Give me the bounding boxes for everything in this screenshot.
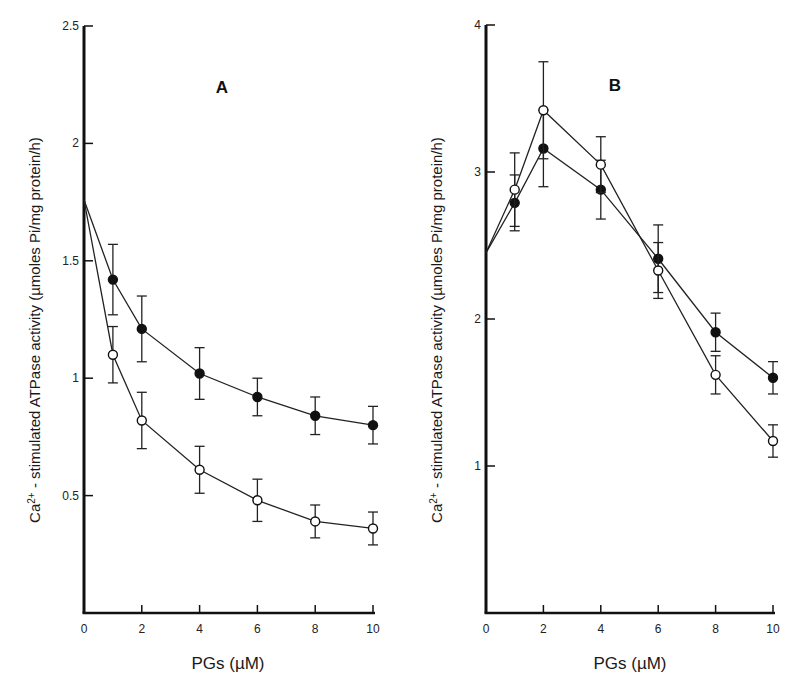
filled-circle-marker [711, 328, 720, 337]
filled-circle-marker [137, 324, 146, 333]
open-circle-marker [711, 370, 720, 379]
filled-circle-marker [769, 373, 778, 382]
x-tick-label: 8 [712, 622, 719, 636]
y-tick-label: 2 [72, 136, 79, 150]
panel-a-x-axis-title: PGs (µM) [191, 654, 264, 673]
x-tick-label: 4 [597, 622, 604, 636]
open-circle-marker [539, 106, 548, 115]
y-tick-label: 0.5 [62, 489, 79, 503]
open-circle-marker [769, 437, 778, 446]
y-tick-label: 3 [474, 165, 481, 179]
filled-circle-marker [311, 411, 320, 420]
open-circle-marker [654, 266, 663, 275]
panel-b-label: B [609, 76, 621, 95]
y-tick-label: 4 [474, 18, 481, 32]
filled-circle-marker [253, 392, 262, 401]
panel-b-x-axis-title: PGs (µM) [593, 654, 666, 673]
y-tick-label: 1 [474, 459, 481, 473]
panel-a-label: A [216, 78, 228, 97]
x-tick-label: 0 [483, 622, 490, 636]
open-circle-marker [253, 496, 262, 505]
open-circle-marker [596, 160, 605, 169]
y-tick-label: 2.5 [62, 19, 79, 33]
figure: 0.511.522.50246810Ca2+ - stimulated ATPa… [0, 0, 797, 695]
x-tick-label: 10 [766, 622, 780, 636]
series-open [84, 200, 378, 545]
x-tick-label: 4 [196, 622, 203, 636]
x-tick-label: 6 [254, 622, 261, 636]
open-circle-marker [369, 524, 378, 533]
panel-b-chart: 12340246810Ca2+ - stimulated ATPase acti… [428, 18, 780, 636]
open-circle-marker [311, 517, 320, 526]
y-axis-title: Ca2+ - stimulated ATPase activity (µmole… [428, 137, 446, 523]
x-tick-label: 2 [138, 622, 145, 636]
x-tick-label: 2 [540, 622, 547, 636]
filled-circle-marker [195, 369, 204, 378]
y-axis-title: Ca2+ - stimulated ATPase activity (µmole… [26, 137, 44, 523]
y-tick-label: 1.5 [62, 254, 79, 268]
series-filled [84, 200, 378, 444]
series-open [486, 62, 778, 457]
panel-a-chart: 0.511.522.50246810Ca2+ - stimulated ATPa… [26, 19, 380, 636]
open-circle-marker [510, 185, 519, 194]
y-tick-label: 2 [474, 312, 481, 326]
y-tick-label: 1 [72, 371, 79, 385]
x-tick-label: 8 [312, 622, 319, 636]
x-tick-label: 10 [366, 622, 380, 636]
open-circle-marker [195, 465, 204, 474]
filled-circle-marker [369, 421, 378, 430]
open-circle-marker [108, 350, 117, 359]
x-tick-label: 6 [655, 622, 662, 636]
open-circle-marker [137, 416, 146, 425]
x-tick-label: 0 [81, 622, 88, 636]
filled-circle-marker [108, 275, 117, 284]
series-filled [486, 110, 778, 394]
